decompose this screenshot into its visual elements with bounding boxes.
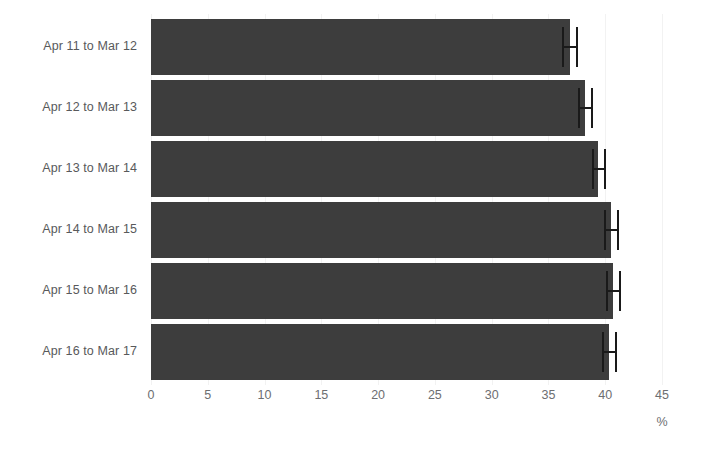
category-axis-labels: Apr 11 to Mar 12Apr 12 to Mar 13Apr 13 t… <box>0 0 137 390</box>
error-bar <box>606 271 621 311</box>
error-bar <box>602 332 617 372</box>
category-label: Apr 13 to Mar 14 <box>42 161 137 175</box>
value-axis: 051015202530354045 <box>0 388 704 408</box>
error-bar <box>562 27 578 67</box>
value-tick-label: 30 <box>485 388 499 402</box>
value-tick-label: 20 <box>371 388 385 402</box>
error-bar <box>578 88 593 128</box>
bar <box>151 263 613 319</box>
category-label: Apr 15 to Mar 16 <box>42 283 137 297</box>
error-bar <box>604 210 619 250</box>
category-label: Apr 11 to Mar 12 <box>43 39 137 53</box>
error-bar-cap-high <box>591 88 593 128</box>
plot-area <box>151 14 662 385</box>
gridline <box>662 14 663 385</box>
bar <box>151 80 585 136</box>
value-tick-label: 45 <box>655 388 669 402</box>
value-tick-label: 40 <box>598 388 612 402</box>
horizontal-bar-chart: Apr 11 to Mar 12Apr 12 to Mar 13Apr 13 t… <box>0 0 704 453</box>
value-tick-label: 35 <box>541 388 555 402</box>
value-tick-label: 10 <box>258 388 272 402</box>
error-bar-cap-high <box>604 149 606 189</box>
error-bar-cap-high <box>615 332 617 372</box>
value-tick-label: 0 <box>148 388 155 402</box>
bar <box>151 141 598 197</box>
category-label: Apr 14 to Mar 15 <box>42 222 137 236</box>
value-tick-label: 15 <box>314 388 328 402</box>
bar <box>151 202 611 258</box>
axis-unit-label: % <box>656 415 667 429</box>
value-tick-label: 25 <box>428 388 442 402</box>
category-label: Apr 16 to Mar 17 <box>42 344 137 358</box>
bar <box>151 324 609 380</box>
error-bar <box>592 149 607 189</box>
error-bar-cap-high <box>619 271 621 311</box>
value-tick-label: 5 <box>204 388 211 402</box>
bar <box>151 19 570 75</box>
category-label: Apr 12 to Mar 13 <box>42 100 137 114</box>
error-bar-cap-high <box>576 27 578 67</box>
error-bar-cap-high <box>617 210 619 250</box>
